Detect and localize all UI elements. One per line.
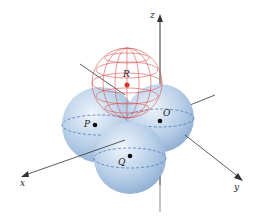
point-p xyxy=(93,123,98,128)
y-axis xyxy=(185,135,240,178)
label-o: O xyxy=(163,108,170,118)
label-p: P xyxy=(84,119,90,129)
point-o xyxy=(158,119,163,124)
label-q: Q xyxy=(118,157,125,167)
point-q xyxy=(128,154,133,159)
label-x: x xyxy=(20,178,25,188)
point-r xyxy=(125,83,130,88)
label-z: z xyxy=(150,10,155,20)
sphere-diagram xyxy=(0,0,257,224)
label-r: R xyxy=(123,69,130,79)
label-y: y xyxy=(234,182,239,192)
